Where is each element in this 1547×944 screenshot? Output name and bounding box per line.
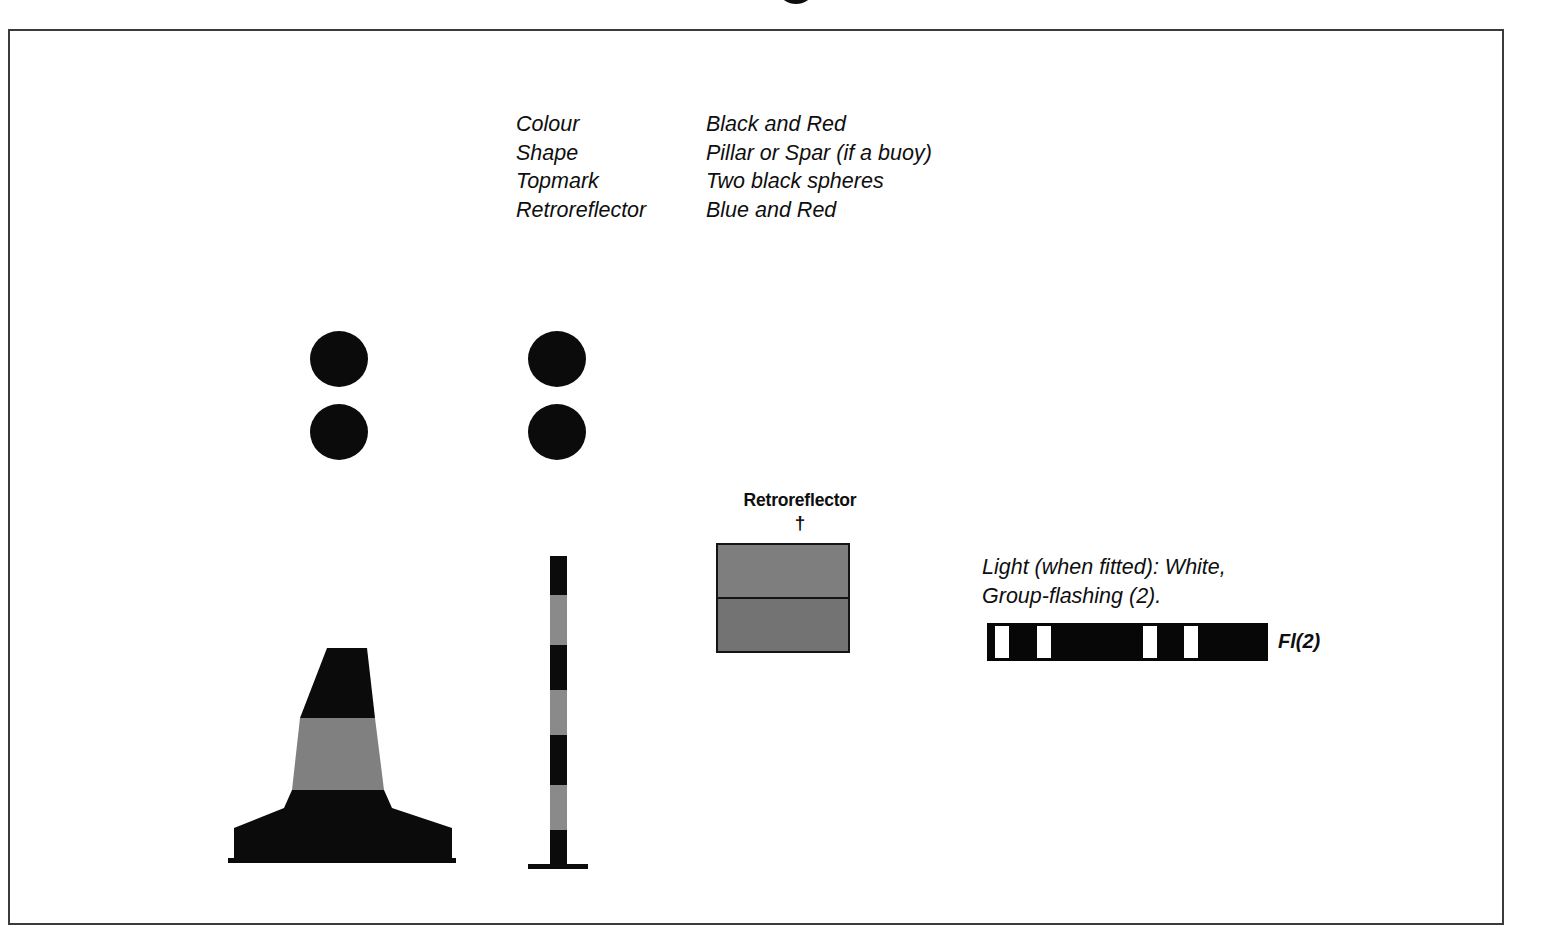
spar-band-red-3: [550, 785, 567, 830]
light-rhythm-bar: [987, 623, 1268, 661]
spec-value-retroreflector: Blue and Red: [706, 196, 932, 225]
light-flash-1: [995, 626, 1009, 658]
light-flash-3: [1143, 626, 1157, 658]
cut-off-title-glyph: [781, 0, 811, 4]
retroreflector-swatch: [716, 543, 850, 653]
specification-table: Colour Black and Red Shape Pillar or Spa…: [516, 110, 932, 224]
light-characteristic-group: Light (when fitted): White, Group-flashi…: [982, 553, 1342, 661]
light-rhythm-row: Fl(2): [982, 623, 1342, 661]
light-description-text: Light (when fitted): White, Group-flashi…: [982, 553, 1342, 610]
retroreflector-group: Retroreflector †: [700, 490, 900, 533]
spec-key-retroreflector: Retroreflector: [516, 196, 706, 225]
spec-value-colour: Black and Red: [706, 110, 932, 139]
pillar-band-black-lower: [234, 790, 452, 858]
pillar-buoy-illustration: [222, 648, 462, 874]
spec-value-shape: Pillar or Spar (if a buoy): [706, 139, 932, 168]
diagram-page: Colour Black and Red Shape Pillar or Spa…: [0, 0, 1547, 944]
spec-key-colour: Colour: [516, 110, 706, 139]
spar-band-red-2: [550, 690, 567, 735]
spec-value-topmark: Two black spheres: [706, 167, 932, 196]
spec-key-shape: Shape: [516, 139, 706, 168]
dagger-icon: †: [700, 513, 900, 533]
pillar-waterline: [228, 858, 456, 863]
black-sphere-icon: [528, 404, 586, 460]
spec-key-topmark: Topmark: [516, 167, 706, 196]
spec-row-colour: Colour Black and Red: [516, 110, 932, 139]
black-sphere-icon: [310, 331, 368, 387]
spec-row-retroreflector: Retroreflector Blue and Red: [516, 196, 932, 225]
spar-buoy-illustration: [528, 556, 588, 874]
pillar-band-red-middle: [292, 718, 384, 790]
topmark-two-black-spheres-pillar: [310, 331, 370, 461]
light-flash-2: [1037, 626, 1051, 658]
black-sphere-icon: [528, 331, 586, 387]
spar-band-black-1: [550, 556, 567, 595]
spar-band-black-3: [550, 735, 567, 785]
retroreflector-band-red: [718, 599, 848, 651]
spar-band-red-1: [550, 595, 567, 645]
light-rhythm-abbreviation: Fl(2): [1278, 630, 1320, 653]
topmark-two-black-spheres-spar: [528, 331, 588, 461]
spar-band-black-4: [550, 830, 567, 864]
retroreflector-label: Retroreflector: [700, 490, 900, 511]
spar-band-black-2: [550, 645, 567, 690]
spec-row-topmark: Topmark Two black spheres: [516, 167, 932, 196]
retroreflector-band-blue: [718, 545, 848, 599]
light-flash-4: [1184, 626, 1198, 658]
spar-waterline: [528, 864, 588, 869]
spec-row-shape: Shape Pillar or Spar (if a buoy): [516, 139, 932, 168]
black-sphere-icon: [310, 404, 368, 460]
pillar-band-black-upper: [300, 648, 375, 718]
